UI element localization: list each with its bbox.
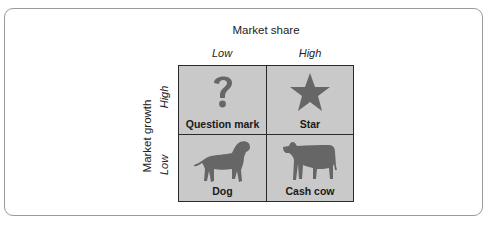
- x-axis-title: Market share: [178, 24, 354, 36]
- x-label-low: Low: [178, 47, 266, 59]
- matrix-grid: Question mark Star Dog Cash cow: [178, 65, 354, 202]
- star-icon: [289, 72, 331, 112]
- y-label-low: Low: [158, 135, 170, 195]
- cell-star: Star: [266, 66, 353, 134]
- cell-dog: Dog: [179, 134, 266, 202]
- cell-cash-cow: Cash cow: [266, 134, 353, 202]
- cell-label: Dog: [212, 185, 232, 197]
- cell-label: Star: [300, 118, 320, 130]
- dog-icon: [192, 139, 254, 185]
- question-mark-icon: [208, 72, 238, 112]
- y-label-high: High: [158, 67, 170, 127]
- x-label-high: High: [266, 47, 354, 59]
- y-axis-title: Market growth: [141, 76, 153, 196]
- cell-label: Question mark: [186, 118, 260, 130]
- cell-question-mark: Question mark: [179, 66, 266, 134]
- cow-icon: [281, 138, 339, 184]
- cell-label: Cash cow: [285, 185, 334, 197]
